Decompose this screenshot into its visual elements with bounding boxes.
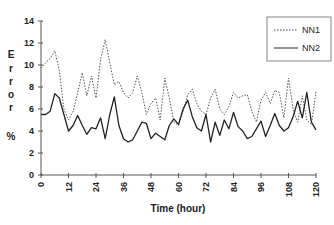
x-tick-label: 24 [91, 182, 101, 192]
legend-nn1-label: NN1 [302, 25, 320, 35]
y-tick-label: 14 [24, 16, 34, 26]
y-title-letter: E [8, 49, 15, 60]
y-tick-label: 8 [29, 82, 34, 92]
y-tick-label: 4 [29, 126, 34, 136]
x-tick-label: 96 [256, 182, 266, 192]
y-title-letter: r [9, 76, 13, 87]
y-tick-label: 0 [29, 170, 34, 180]
y-tick-label: 6 [29, 104, 34, 114]
legend: NN1 NN2 [267, 17, 331, 61]
y-axis-title: Error% [7, 49, 16, 142]
legend-box [267, 17, 331, 61]
x-tick-label: 60 [174, 182, 184, 192]
x-tick-label: 48 [146, 182, 156, 192]
y-tick-label: 12 [24, 38, 34, 48]
y-title-letter: r [9, 63, 13, 74]
y-title-letter: o [8, 89, 14, 100]
x-tick-label: 36 [119, 182, 129, 192]
y-title-letter: % [7, 131, 16, 142]
series-nn2 [41, 93, 316, 143]
y-tick-label: 2 [29, 148, 34, 158]
x-axis-title: Time (hour) [151, 203, 206, 214]
x-tick-label: 108 [284, 182, 294, 197]
y-title-letter: r [9, 102, 13, 113]
line-chart: 0246810121401224364860728496108120 Error… [0, 0, 334, 225]
x-tick-label: 120 [311, 182, 321, 197]
x-tick-label: 12 [64, 182, 74, 192]
x-tick-label: 84 [229, 182, 239, 192]
x-tick-label: 0 [36, 182, 46, 187]
legend-nn2-label: NN2 [302, 43, 320, 53]
x-tick-label: 72 [201, 182, 211, 192]
y-tick-label: 10 [24, 60, 34, 70]
